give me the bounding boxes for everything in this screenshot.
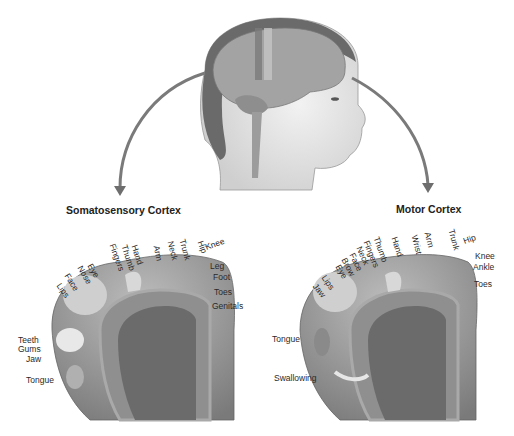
- somatosensory-title: Somatosensory Cortex: [66, 204, 181, 216]
- head-illustration: [200, 18, 365, 190]
- label-swallowing: Swallowing: [274, 374, 317, 383]
- label-toes: Toes: [214, 288, 232, 297]
- label-arm: Arm: [152, 245, 164, 262]
- diagram-graphics: [0, 0, 514, 436]
- label-gums: Gums: [18, 345, 41, 354]
- arrow-to-motor: [352, 78, 428, 185]
- label-tongue: Tongue: [26, 376, 54, 385]
- label-tongue-motor: Tongue: [272, 335, 300, 344]
- label-leg: Leg: [210, 262, 224, 271]
- label-genitals: Genitals: [212, 302, 243, 311]
- label-toes-motor: Toes: [474, 280, 492, 289]
- label-jaw: Jaw: [26, 355, 41, 364]
- label-foot: Foot: [213, 273, 230, 282]
- arrow-to-somatosensory: [120, 73, 205, 188]
- motor-title: Motor Cortex: [396, 203, 461, 215]
- somatosensory-slice: [52, 255, 235, 420]
- label-knee-motor: Knee: [475, 252, 495, 261]
- label-ankle: Ankle: [473, 263, 494, 272]
